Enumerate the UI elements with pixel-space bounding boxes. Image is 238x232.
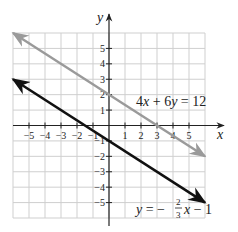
y-tick-label: 4 (100, 58, 105, 69)
y-tick-label: −4 (94, 182, 105, 193)
x-tick-label: 2 (139, 130, 144, 141)
y-tick-label: 5 (100, 43, 105, 54)
svg-text:3: 3 (176, 210, 181, 220)
x-axis-label: x (216, 127, 224, 142)
x-tick-label: −5 (24, 130, 35, 141)
y-tick-label: −5 (94, 197, 105, 208)
x-tick-label: −2 (72, 130, 83, 141)
svg-text:y = −: y = − (134, 202, 165, 217)
y-tick-label: 1 (100, 105, 105, 116)
y-axis-label: y (95, 10, 104, 25)
y-tick-label: −2 (94, 151, 105, 162)
x-tick-label: −4 (40, 130, 51, 141)
x-tick-label: 5 (187, 130, 192, 141)
equation-label-line1: 4x + 6y = 12 (136, 94, 206, 109)
y-tick-label: 3 (100, 74, 105, 85)
coordinate-plane: −5−4−3−2−11234554321−1−2−3−4−5 y x 4x + … (0, 0, 238, 232)
graph-figure: −5−4−3−2−11234554321−1−2−3−4−5 y x 4x + … (0, 0, 238, 232)
y-tick-label: −3 (94, 166, 105, 177)
svg-text:2: 2 (176, 197, 181, 207)
x-tick-label: 1 (123, 130, 128, 141)
svg-text:x − 1: x − 1 (183, 202, 212, 217)
x-tick-label: −3 (56, 130, 67, 141)
x-tick-label: 3 (155, 130, 160, 141)
